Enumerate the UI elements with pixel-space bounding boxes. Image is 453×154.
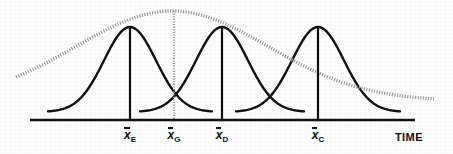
xbar-letter: x <box>312 128 319 142</box>
tick-label-xbar-g: xG <box>168 127 181 144</box>
xbar-letter: x <box>124 128 131 142</box>
overbar <box>216 127 222 129</box>
tick-label-xbar-e: xE <box>124 127 136 144</box>
xbar-letter: x <box>216 128 223 142</box>
xbar-subscript: D <box>222 135 228 144</box>
statistical-distributions-figure: xE xG xD xC TIME <box>0 0 453 154</box>
xbar-symbol: x <box>312 127 319 141</box>
xbar-letter: x <box>168 128 175 142</box>
tick-label-xbar-d: xD <box>216 127 228 144</box>
xbar-symbol: x <box>124 127 131 141</box>
overbar <box>124 127 130 129</box>
xbar-subscript: G <box>174 135 180 144</box>
xbar-subscript: E <box>131 135 136 144</box>
overbar <box>312 127 318 129</box>
curve-envelope-G <box>16 11 434 99</box>
xbar-symbol: x <box>216 127 223 141</box>
axis-label-time: TIME <box>395 131 423 143</box>
xbar-subscript: C <box>318 135 324 144</box>
xbar-symbol: x <box>168 127 175 141</box>
tick-label-xbar-c: xC <box>312 127 324 144</box>
overbar <box>168 127 174 129</box>
